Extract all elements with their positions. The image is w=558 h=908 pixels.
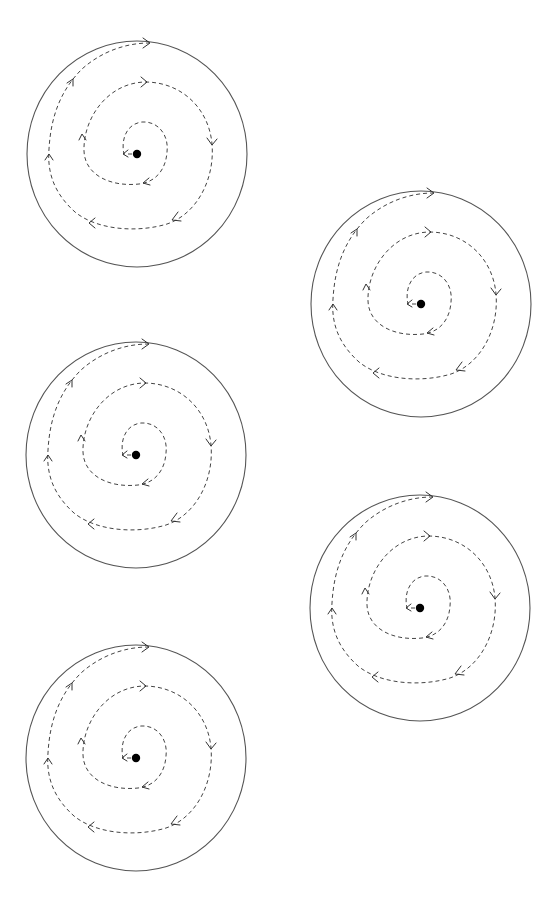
spiral-figure-2 (311, 188, 531, 417)
spiral-figure-1 (27, 38, 247, 267)
spiral-figure-3 (26, 339, 246, 568)
diagram-canvas (0, 0, 558, 908)
spiral-figure-4 (310, 492, 530, 721)
spiral-figure-5 (26, 642, 246, 871)
